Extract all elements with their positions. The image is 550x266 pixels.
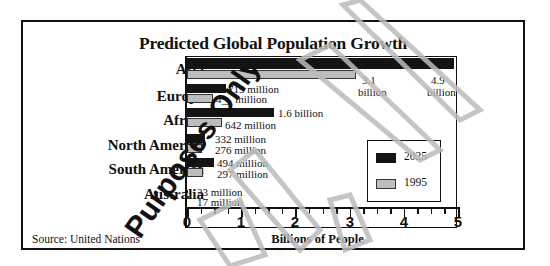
x-tick-label-0: 0	[183, 213, 191, 230]
value-label-africa-2025: 1.6 billion	[278, 108, 323, 119]
bar-europe-1995	[187, 94, 213, 103]
x-tick-label-2: 2	[291, 213, 299, 230]
bar-africa-1995	[187, 118, 222, 127]
value-label-asia-2025: 4.9	[431, 75, 445, 86]
legend-swatch-1995	[376, 179, 396, 189]
x-axis-tick	[214, 207, 216, 214]
value-label-asia-1995-unit: billion	[358, 87, 387, 98]
bar-europe-2025	[187, 84, 226, 93]
legend-label-2025: 2025	[404, 150, 427, 162]
bar-asia-2025	[187, 58, 454, 69]
x-tick-label-4: 4	[400, 213, 408, 230]
x-axis-tick	[309, 207, 311, 214]
legend-label-1995: 1995	[404, 176, 427, 188]
legend: 2025 1995	[367, 140, 441, 202]
bar-africa-2025	[187, 108, 274, 117]
x-axis-tick	[390, 207, 392, 214]
bar-australia-2025	[187, 190, 188, 193]
bar-australia-1995	[187, 196, 189, 199]
x-axis-tick	[336, 207, 338, 214]
bar-north-america-1995	[187, 144, 202, 153]
legend-swatch-2025	[376, 153, 396, 163]
source-note: Source: United Nations	[32, 233, 140, 245]
value-label-africa-1995: 642 million	[225, 120, 276, 131]
x-axis-tick	[255, 207, 257, 214]
x-axis-tick	[363, 207, 365, 214]
x-axis-tick	[268, 207, 270, 214]
x-axis-tick	[444, 207, 446, 214]
x-axis-tick	[201, 207, 203, 214]
x-axis-tick	[323, 207, 325, 214]
x-axis-tick	[377, 207, 379, 214]
x-axis-ticks	[187, 207, 458, 217]
x-tick-label-1: 1	[237, 213, 245, 230]
value-label-asia-1995: 3.1	[362, 75, 376, 86]
bar-south-america-1995	[187, 168, 203, 177]
x-axis-tick	[282, 207, 284, 214]
bar-asia-1995	[187, 70, 356, 79]
x-axis-tick	[431, 207, 433, 214]
value-label-south-america-1995: 297 million	[217, 169, 268, 180]
value-label-asia-2025-unit: billion	[427, 87, 456, 98]
chart-title: Predicted Global Population Growth	[23, 33, 523, 54]
x-tick-label-3: 3	[346, 213, 354, 230]
x-tick-label-5: 5	[454, 213, 462, 230]
value-label-north-america-1995: 276 million	[215, 145, 266, 156]
x-axis-tick	[417, 207, 419, 214]
bar-south-america-2025	[187, 158, 214, 167]
bar-north-america-2025	[187, 134, 205, 143]
x-axis-tick	[228, 207, 230, 214]
value-label-europe-1995: 4__ million	[216, 94, 267, 105]
